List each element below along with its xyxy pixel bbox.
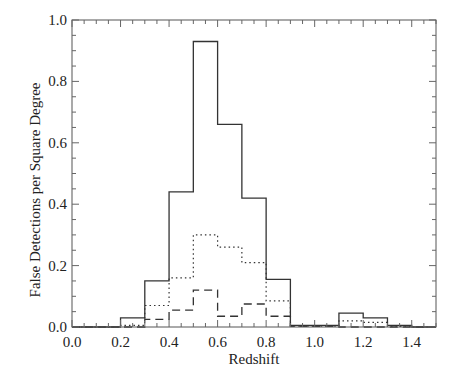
y-tick-label: 0.4	[48, 196, 67, 212]
x-tick-label: 1.4	[402, 334, 421, 350]
y-tick-label: 0.6	[48, 135, 67, 151]
y-tick-labels: 0.00.20.40.60.81.0	[48, 12, 67, 335]
y-tick-label: 1.0	[48, 12, 67, 28]
x-tick-label: 1.0	[305, 334, 324, 350]
x-tick-label: 0.8	[257, 334, 276, 350]
x-tick-labels: 0.00.20.40.60.81.01.21.4	[63, 334, 422, 350]
y-tick-label: 0.8	[48, 73, 67, 89]
x-tick-label: 0.6	[208, 334, 227, 350]
x-tick-label: 0.2	[111, 334, 130, 350]
x-tick-label: 0.4	[160, 334, 179, 350]
axis-ticks	[72, 20, 436, 327]
x-tick-label: 0.0	[63, 334, 82, 350]
x-axis-title: Redshift	[229, 351, 281, 367]
series-dashed	[72, 290, 436, 327]
histogram-chart: 0.00.20.40.60.81.01.21.4 0.00.20.40.60.8…	[0, 0, 455, 385]
series-dotted	[72, 235, 436, 327]
y-tick-label: 0.0	[48, 319, 67, 335]
y-tick-label: 0.2	[48, 258, 67, 274]
series-solid	[72, 41, 436, 327]
plot-frame	[72, 20, 436, 327]
x-tick-label: 1.2	[354, 334, 373, 350]
histogram-series	[72, 41, 436, 327]
y-axis-title: False Detections per Square Degree	[27, 82, 43, 297]
